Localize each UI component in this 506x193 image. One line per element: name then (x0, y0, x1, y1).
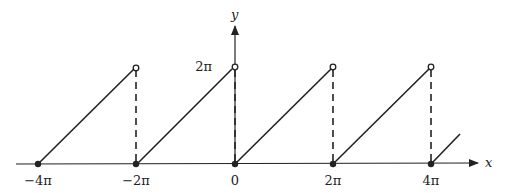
closed-point (35, 161, 41, 167)
open-point (330, 64, 336, 70)
x-tick-label: 2π (325, 173, 342, 188)
y-tick-label: 2π (195, 59, 212, 74)
y-axis-label: y (230, 7, 239, 22)
ramp-segment (38, 69, 134, 164)
x-tick-label: −4π (24, 173, 52, 188)
ramp-segment (333, 69, 429, 164)
closed-point (133, 161, 139, 167)
open-point (428, 64, 434, 70)
open-point (133, 65, 139, 71)
x-tick-label: −2π (122, 173, 150, 188)
x-axis-label: x (485, 155, 493, 170)
open-point (232, 64, 238, 70)
x-tick-label: 0 (231, 173, 239, 188)
closed-point (330, 161, 336, 167)
closed-point (232, 161, 238, 167)
closed-point (428, 161, 434, 167)
x-tick-label: 4π (423, 173, 440, 188)
ramp-segment (137, 69, 232, 164)
ramp-segment-partial (432, 134, 460, 163)
x-axis (16, 163, 478, 164)
ramp-segment (235, 69, 331, 164)
sawtooth-graph: y x 2π −4π −2π 0 2π 4π (0, 0, 506, 193)
